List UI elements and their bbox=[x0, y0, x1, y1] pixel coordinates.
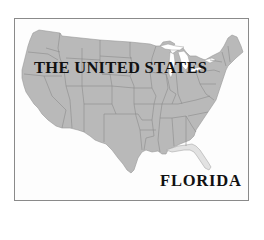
us-landmass bbox=[22, 30, 243, 173]
map-title-united-states: THE UNITED STATES bbox=[34, 58, 207, 78]
highlighted-region-label-florida: FLORIDA bbox=[160, 171, 242, 191]
florida-region bbox=[166, 144, 211, 170]
